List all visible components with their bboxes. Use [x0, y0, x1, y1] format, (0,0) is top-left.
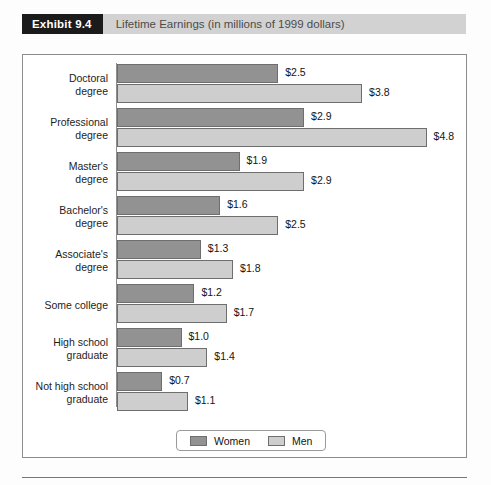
bar-value-label: $4.8 [434, 130, 454, 142]
bar-row-men: $3.8 [117, 84, 457, 103]
bar-row-women: $0.7 [117, 372, 457, 391]
bar-value-label: $1.1 [195, 394, 215, 406]
bar-value-label: $2.9 [311, 110, 331, 122]
category-label: Professionaldegree [23, 107, 111, 151]
bar-group: Bachelor'sdegree$1.6$2.5 [23, 195, 466, 239]
bar-men [117, 172, 304, 191]
category-label-line: Master's [69, 160, 108, 173]
bar-women [117, 108, 304, 127]
bar-value-label: $1.2 [201, 286, 221, 298]
bar-value-label: $1.3 [208, 242, 228, 254]
legend-label: Men [292, 435, 312, 447]
bar-row-men: $1.7 [117, 304, 457, 323]
bar-men [117, 128, 427, 147]
category-label-line: Associate's [55, 248, 108, 261]
bar-value-label: $1.8 [240, 262, 260, 274]
bar-value-label: $2.5 [285, 218, 305, 230]
bar-group: Associate'sdegree$1.3$1.8 [23, 239, 466, 283]
bar-value-label: $1.9 [247, 154, 267, 166]
chart-panel: Doctoraldegree$2.5$3.8Professionaldegree… [22, 54, 467, 458]
bar-row-women: $2.9 [117, 108, 457, 127]
bar-row-men: $1.4 [117, 348, 457, 367]
legend-item-women[interactable]: Women [190, 435, 250, 447]
bar-value-label: $1.7 [234, 306, 254, 318]
bar-row-men: $1.8 [117, 260, 457, 279]
category-label-line: graduate [67, 349, 108, 362]
category-label-line: degree [75, 261, 108, 274]
bar-row-women: $1.2 [117, 284, 457, 303]
bar-row-women: $2.5 [117, 64, 457, 83]
bar-men [117, 216, 278, 235]
category-label: High schoolgraduate [23, 327, 111, 371]
legend-label: Women [214, 435, 250, 447]
bar-women [117, 64, 278, 83]
bar-group: Doctoraldegree$2.5$3.8 [23, 63, 466, 107]
bar-group: Not high schoolgraduate$0.7$1.1 [23, 371, 466, 415]
bar-men [117, 84, 362, 103]
chart-legend: WomenMen [176, 430, 326, 451]
category-label: Associate'sdegree [23, 239, 111, 283]
category-label: Not high schoolgraduate [23, 371, 111, 415]
legend-item-men[interactable]: Men [268, 435, 312, 447]
bar-group: Master'sdegree$1.9$2.9 [23, 151, 466, 195]
category-label-line: graduate [67, 393, 108, 406]
category-label-line: Some college [44, 299, 108, 312]
category-label-line: Bachelor's [59, 204, 108, 217]
bar-group: Some college$1.2$1.7 [23, 283, 466, 327]
category-label-line: degree [75, 85, 108, 98]
category-label-line: Doctoral [69, 72, 108, 85]
bar-women [117, 196, 220, 215]
bar-value-label: $3.8 [369, 86, 389, 98]
category-label-line: degree [75, 129, 108, 142]
exhibit-number-tag: Exhibit 9.4 [22, 14, 103, 34]
legend-swatch-icon [268, 436, 285, 446]
bar-group: High schoolgraduate$1.0$1.4 [23, 327, 466, 371]
footer-rule [22, 477, 467, 478]
category-label-line: High school [53, 336, 108, 349]
bar-men [117, 260, 233, 279]
bar-group: Professionaldegree$2.9$4.8 [23, 107, 466, 151]
bar-row-women: $1.6 [117, 196, 457, 215]
bar-men [117, 304, 227, 323]
category-label: Bachelor'sdegree [23, 195, 111, 239]
bar-row-women: $1.0 [117, 328, 457, 347]
category-label: Some college [23, 283, 111, 327]
bar-women [117, 328, 182, 347]
bar-women [117, 240, 201, 259]
category-label: Doctoraldegree [23, 63, 111, 107]
bar-row-women: $1.3 [117, 240, 457, 259]
bar-value-label: $1.4 [214, 350, 234, 362]
bar-value-label: $0.7 [169, 374, 189, 386]
legend-swatch-icon [190, 436, 207, 446]
category-label-line: Not high school [36, 380, 108, 393]
bar-row-men: $1.1 [117, 392, 457, 411]
exhibit-figure: Exhibit 9.4 Lifetime Earnings (in millio… [0, 0, 491, 485]
bar-men [117, 392, 188, 411]
category-label: Master'sdegree [23, 151, 111, 195]
bar-value-label: $1.0 [189, 330, 209, 342]
bar-value-label: $2.9 [311, 174, 331, 186]
category-label-line: degree [75, 217, 108, 230]
bar-women [117, 152, 240, 171]
bar-chart-plot-area: Doctoraldegree$2.5$3.8Professionaldegree… [23, 55, 466, 457]
exhibit-header: Exhibit 9.4 Lifetime Earnings (in millio… [22, 14, 466, 34]
bar-row-men: $4.8 [117, 128, 457, 147]
bar-value-label: $2.5 [285, 66, 305, 78]
bar-men [117, 348, 207, 367]
bar-row-men: $2.5 [117, 216, 457, 235]
bar-value-label: $1.6 [227, 198, 247, 210]
bar-row-men: $2.9 [117, 172, 457, 191]
bar-women [117, 372, 162, 391]
category-label-line: Professional [50, 116, 108, 129]
bar-row-women: $1.9 [117, 152, 457, 171]
bar-women [117, 284, 194, 303]
exhibit-title: Lifetime Earnings (in millions of 1999 d… [103, 14, 345, 34]
category-label-line: degree [75, 173, 108, 186]
